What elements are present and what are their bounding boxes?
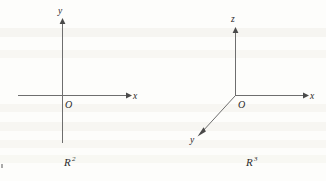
r3-z-axis-label: z bbox=[230, 14, 235, 24]
r3-y-axis-label: y bbox=[189, 135, 195, 145]
figure-canvas: x y O R 2 x z y O R 3 bbox=[0, 0, 326, 181]
r3-x-axis-label: x bbox=[309, 91, 315, 101]
r3-origin-label: O bbox=[238, 99, 245, 110]
r2-caption-superscript: 2 bbox=[72, 155, 76, 163]
r2-x-axis-label: x bbox=[132, 91, 138, 101]
r3-caption: R bbox=[245, 156, 253, 168]
r3-caption-superscript: 3 bbox=[253, 155, 258, 163]
r2-y-axis-label: y bbox=[57, 6, 63, 16]
edge-speck-artifact bbox=[1, 164, 3, 168]
r2-origin-label: O bbox=[65, 99, 72, 110]
coordinate-systems-figure: x y O R 2 x z y O R 3 bbox=[0, 0, 326, 181]
r2-caption: R bbox=[63, 156, 71, 168]
figure-background bbox=[0, 0, 326, 181]
